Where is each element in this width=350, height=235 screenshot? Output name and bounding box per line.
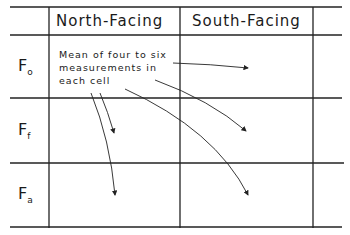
- arrow-to-north-ff: [100, 93, 114, 133]
- arrow-to-north-fa: [91, 93, 115, 195]
- row-header-fo: Fo: [18, 56, 33, 77]
- column-header-north: North-Facing: [56, 12, 163, 30]
- arrow-to-south-fo: [173, 63, 248, 68]
- arrow-to-south-fa: [125, 89, 248, 195]
- row-header-fa: Fa: [18, 184, 33, 205]
- annotation-line: measurements in: [59, 61, 167, 74]
- row-header-ff: Ff: [18, 120, 30, 141]
- annotation-line: each cell: [59, 74, 167, 87]
- annotation-note: Mean of four to six measurements in each…: [59, 48, 167, 87]
- column-header-south: South-Facing: [192, 12, 301, 30]
- annotation-line: Mean of four to six: [59, 48, 167, 61]
- grid-lines: [0, 0, 350, 235]
- arrow-to-south-ff: [155, 80, 246, 131]
